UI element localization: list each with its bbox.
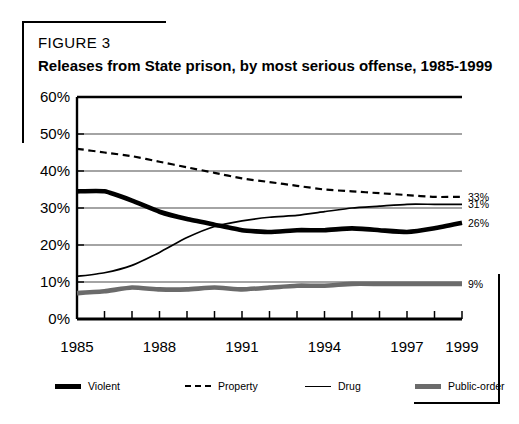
y-axis-tick-labels: 60%50%40%30%20%10%0%	[18, 0, 70, 424]
y-axis-tick-label: 50%	[22, 126, 70, 141]
x-axis-tick-label: 1999	[432, 338, 492, 355]
legend-label: Property	[218, 380, 258, 392]
legend-item-drug[interactable]: Drug	[305, 378, 361, 394]
y-axis-tick-label: 20%	[22, 237, 70, 252]
x-axis-tick-label: 1997	[377, 338, 437, 355]
line-chart: 60%50%40%30%20%10%0% 1985198819911994199…	[0, 0, 519, 424]
x-axis-tick-label: 1994	[295, 338, 355, 355]
legend-item-property[interactable]: Property	[185, 378, 258, 394]
figure-container: FIGURE 3 Releases from State prison, by …	[0, 0, 519, 424]
series-line-public-order	[77, 284, 462, 293]
series-line-violent	[77, 191, 462, 232]
series-line-drug	[77, 204, 462, 276]
chart-svg-canvas	[0, 0, 519, 424]
x-axis-tick-label: 1991	[212, 338, 272, 355]
property-dashed-swatch	[185, 380, 211, 392]
legend-label: Public-order	[448, 380, 505, 392]
legend-label: Violent	[88, 380, 120, 392]
data-series-group	[77, 149, 462, 293]
x-axis-tick-label: 1985	[47, 338, 107, 355]
end-value-label-drug: 31%	[468, 198, 489, 210]
legend-item-public-order[interactable]: Public-order	[415, 378, 505, 394]
public-order-line-swatch	[415, 380, 441, 392]
legend-label: Drug	[338, 380, 361, 392]
y-axis-tick-label: 40%	[22, 163, 70, 178]
y-axis-tick-label: 10%	[22, 274, 70, 289]
y-axis-tick-label: 60%	[22, 89, 70, 104]
end-value-label-violent: 26%	[468, 217, 489, 229]
chart-legend: ViolentPropertyDrugPublic-order	[55, 378, 475, 396]
drug-line-swatch	[305, 380, 331, 392]
x-axis-tick-label: 1988	[130, 338, 190, 355]
y-axis-tick-label: 30%	[22, 200, 70, 215]
end-value-label-public-order: 9%	[468, 278, 483, 290]
violent-line-swatch	[55, 380, 81, 392]
legend-item-violent[interactable]: Violent	[55, 378, 120, 394]
series-line-property	[77, 149, 462, 197]
y-axis-tick-label: 0%	[22, 311, 70, 326]
